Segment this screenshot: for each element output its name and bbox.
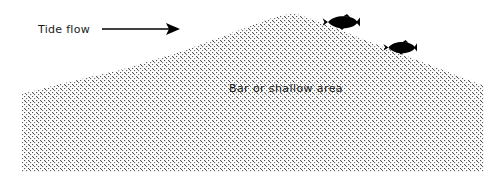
tide-flow-label: Tide flow — [37, 23, 90, 36]
fish-body — [328, 16, 360, 28]
fish-dorsal-fin — [402, 40, 408, 43]
diagram-canvas: Tide flow Bar or shallow area — [0, 0, 503, 182]
bar-area-label: Bar or shallow area — [229, 82, 343, 95]
fish-dorsal-fin — [343, 14, 350, 17]
tide-flow-arrow — [102, 23, 180, 35]
tide-flow-diagram: Tide flow Bar or shallow area — [0, 0, 503, 182]
fish-ventral-fin — [339, 27, 345, 30]
